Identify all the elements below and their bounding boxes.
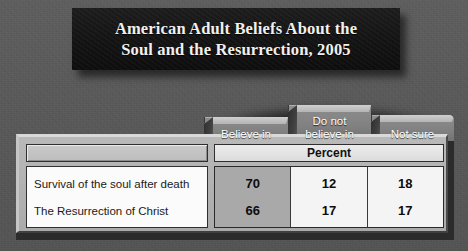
table-cell: 18: [368, 170, 443, 197]
tab-line-1: Not sure: [391, 128, 434, 140]
table-cell: 12: [291, 170, 366, 197]
column-header-label: Believe in: [221, 128, 271, 141]
title-line-1: American Adult Beliefs About the: [115, 19, 357, 38]
table-cell: 17: [291, 197, 366, 224]
title-line-2: Soul and the Resurrection, 2005: [121, 40, 350, 59]
column-header-label: Not sure: [391, 128, 434, 141]
tab-top-bevel: [371, 115, 454, 122]
row-label-column: Survival of the soul after death The Res…: [26, 166, 208, 228]
column-header-label: Do not believe in: [305, 115, 354, 140]
value-column-believe-in: 70 66: [215, 167, 291, 227]
table-row-label: The Resurrection of Christ: [27, 197, 207, 224]
title-plaque: American Adult Beliefs About the Soul an…: [72, 8, 400, 70]
page-title: American Adult Beliefs About the Soul an…: [105, 18, 367, 60]
table-row-label: Survival of the soul after death: [27, 170, 207, 197]
units-header-percent: Percent: [214, 144, 444, 162]
value-columns: 70 66 12 17 18 17: [214, 166, 444, 228]
tab-top-bevel: [288, 105, 371, 112]
tab-line-1: Do not: [313, 115, 347, 127]
tab-top-bevel: [204, 117, 288, 124]
value-column-not-sure: 18 17: [368, 167, 443, 227]
table-cell: 17: [368, 197, 443, 224]
table-cell: 66: [215, 197, 290, 224]
tab-line-1: Believe in: [221, 128, 271, 140]
table-panel: Percent Survival of the soul after death…: [16, 134, 448, 233]
data-table: Believe in Do not believe in Not sure Pe…: [16, 100, 454, 240]
table-corner-cell: [26, 144, 208, 162]
table-cell: 70: [215, 170, 290, 197]
value-column-do-not-believe-in: 12 17: [291, 167, 367, 227]
tab-line-2: believe in: [305, 128, 354, 140]
